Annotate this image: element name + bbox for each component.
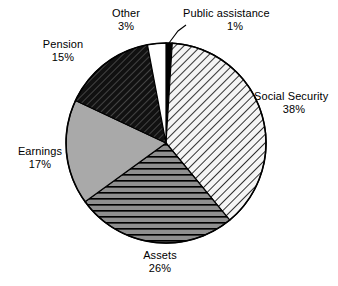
pie-slices: [66, 43, 266, 243]
slice-label-other: Other 3%: [86, 7, 166, 33]
slice-label-social-security-value: 38%: [254, 103, 334, 116]
slice-label-assets-value: 26%: [120, 262, 200, 275]
slice-label-assets: Assets 26%: [120, 249, 200, 275]
slice-label-public-assistance: Public assistance 1%: [183, 7, 323, 33]
slice-label-earnings: Earnings 17%: [0, 145, 80, 171]
slice-label-pension: Pension 15%: [18, 38, 108, 64]
slice-label-pension-name: Pension: [18, 38, 108, 51]
slice-label-social-security: Social Security 38%: [254, 90, 338, 116]
slice-label-earnings-value: 17%: [0, 158, 80, 171]
slice-label-public-assistance-name: Public assistance: [183, 7, 323, 20]
slice-label-social-security-name: Social Security: [254, 90, 338, 103]
slice-label-pension-value: 15%: [18, 51, 108, 64]
slice-label-public-assistance-value: 1%: [183, 20, 287, 33]
slice-label-assets-name: Assets: [120, 249, 200, 262]
slice-label-other-name: Other: [86, 7, 166, 20]
slice-label-earnings-name: Earnings: [0, 145, 80, 158]
pie-chart: Other 3% Public assistance 1% Pension 15…: [0, 0, 338, 286]
slice-label-other-value: 3%: [86, 20, 166, 33]
